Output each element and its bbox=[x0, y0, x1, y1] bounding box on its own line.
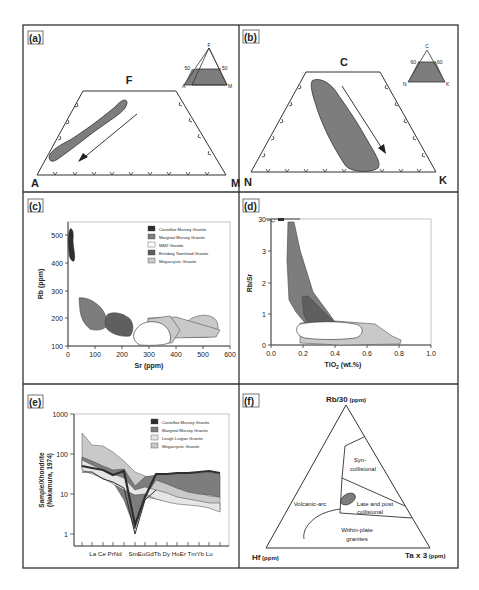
svg-text:10: 10 bbox=[60, 491, 68, 498]
svg-text:0.0: 0.0 bbox=[266, 350, 276, 357]
svg-text:MMZ Granite: MMZ Granite bbox=[159, 243, 184, 248]
vertex-C: C bbox=[340, 56, 348, 68]
vertex-F: F bbox=[126, 74, 133, 86]
svg-text:0.8: 0.8 bbox=[394, 350, 404, 357]
svg-text:Lough Lurgan Granite: Lough Lurgan Granite bbox=[162, 436, 203, 441]
c-ylabel: Rb (ppm) bbox=[37, 269, 45, 300]
svg-text:Costelloe Murvey Granite: Costelloe Murvey Granite bbox=[159, 227, 207, 232]
panel-d-tag: (d) bbox=[244, 201, 257, 212]
svg-text:Rb/30 (ppm): Rb/30 (ppm) bbox=[326, 395, 366, 404]
svg-text:100: 100 bbox=[51, 343, 63, 350]
svg-text:60: 60 bbox=[437, 59, 443, 65]
svg-text:Within-plate: Within-plate bbox=[341, 527, 373, 533]
vertex-N: N bbox=[244, 176, 252, 188]
e-legend: Costelloe Murvey Granite Marginal Murvey… bbox=[151, 419, 210, 449]
svg-text:500: 500 bbox=[197, 351, 209, 358]
svg-text:F: F bbox=[207, 42, 210, 48]
panel-c-tag: (c) bbox=[29, 201, 41, 212]
svg-text:600: 600 bbox=[224, 351, 236, 358]
inset-afm: F A M 50 50 bbox=[182, 42, 232, 89]
figure: (a) F A M F A M 50 50 (b) bbox=[0, 0, 479, 590]
e-xlabels: La Ce PrNd SmEuGdTb Dy HoEr TmYb Lu bbox=[89, 550, 213, 557]
svg-text:Costelloe Murvey Granite: Costelloe Murvey Granite bbox=[162, 420, 210, 425]
svg-text:K: K bbox=[446, 81, 450, 87]
panel-e: (e) 1000 100 10 1 La Ce PrNd SmEuGdTb Dy… bbox=[28, 395, 229, 557]
svg-text:1: 1 bbox=[64, 531, 68, 538]
panel-e-tag: (e) bbox=[29, 397, 41, 408]
panel-b-tag: (b) bbox=[244, 32, 257, 43]
svg-text:200: 200 bbox=[116, 351, 128, 358]
svg-text:M: M bbox=[228, 83, 232, 89]
svg-text:0: 0 bbox=[262, 342, 266, 349]
vertex-M: M bbox=[231, 177, 240, 189]
vertex-K: K bbox=[439, 174, 447, 186]
panel-a-tag: (a) bbox=[29, 33, 41, 44]
svg-text:30: 30 bbox=[258, 216, 266, 223]
vertex-A: A bbox=[31, 177, 39, 189]
svg-text:Ta x 3 (ppm): Ta x 3 (ppm) bbox=[405, 551, 445, 560]
svg-text:300: 300 bbox=[51, 288, 63, 295]
panel-f-tag: (f) bbox=[244, 396, 254, 407]
svg-text:Syn-: Syn- bbox=[354, 457, 366, 463]
svg-text:500: 500 bbox=[51, 232, 63, 239]
panel-a: (a) F A M F A M 50 50 bbox=[28, 31, 240, 189]
svg-text:collisional: collisional bbox=[357, 509, 383, 515]
svg-text:Errisbeg Townland Granite: Errisbeg Townland Granite bbox=[159, 251, 209, 256]
svg-text:Megacrystic Granite: Megacrystic Granite bbox=[159, 259, 197, 264]
panel-b: (b) C N K C N K 60 60 bbox=[243, 30, 450, 188]
c-xlabel: Sr (ppm) bbox=[135, 362, 164, 370]
svg-text:2: 2 bbox=[262, 280, 266, 287]
svg-text:granites: granites bbox=[346, 536, 367, 542]
panel-d: (d) 0.0 0.2 0.4 0.6 0.8 1.0 0 1 2 3 30 T… bbox=[243, 199, 436, 370]
svg-text:1000: 1000 bbox=[52, 411, 68, 418]
svg-text:100: 100 bbox=[89, 351, 101, 358]
svg-text:0: 0 bbox=[66, 351, 70, 358]
svg-text:100: 100 bbox=[56, 451, 68, 458]
svg-text:collisional: collisional bbox=[350, 466, 376, 472]
svg-text:Volcanic-arc: Volcanic-arc bbox=[294, 501, 327, 507]
svg-text:C: C bbox=[425, 43, 429, 49]
svg-text:0.2: 0.2 bbox=[298, 350, 308, 357]
d-xlabel: TiO2 (wt.%) bbox=[325, 361, 362, 370]
d-ylabel: Rb/Sr bbox=[246, 273, 253, 292]
svg-text:0.6: 0.6 bbox=[362, 350, 372, 357]
panel-c: (c) 0 100 200 300 400 500 600 100 200 30… bbox=[28, 199, 236, 370]
svg-text:Hf (ppm): Hf (ppm) bbox=[252, 553, 279, 562]
svg-text:400: 400 bbox=[51, 260, 63, 267]
svg-text:3: 3 bbox=[262, 248, 266, 255]
c-legend: Costelloe Murvey Granite Marginal Murvey… bbox=[148, 226, 209, 264]
svg-text:200: 200 bbox=[51, 315, 63, 322]
svg-text:50: 50 bbox=[222, 65, 228, 71]
cnk-field bbox=[311, 80, 379, 172]
svg-text:Late and post: Late and post bbox=[357, 501, 394, 507]
inset-cnk: C N K 60 60 bbox=[403, 43, 450, 87]
panel-f: (f) Rb/30 (ppm) Hf (ppm) Ta x 3 (ppm) Sy… bbox=[243, 394, 445, 562]
svg-text:50: 50 bbox=[184, 65, 190, 71]
svg-text:60: 60 bbox=[410, 59, 416, 65]
svg-text:1.0: 1.0 bbox=[426, 350, 436, 357]
svg-text:Marginal Murvey Granite: Marginal Murvey Granite bbox=[162, 428, 209, 433]
figure-frame bbox=[23, 25, 458, 568]
svg-text:400: 400 bbox=[170, 351, 182, 358]
svg-text:Marginal Murvey Granite: Marginal Murvey Granite bbox=[159, 235, 206, 240]
svg-text:300: 300 bbox=[143, 351, 155, 358]
svg-text:N: N bbox=[403, 81, 407, 87]
svg-text:Sample/Xhondrite: Sample/Xhondrite bbox=[38, 452, 46, 508]
svg-text:(Nakamura, 1974): (Nakamura, 1974) bbox=[46, 453, 54, 507]
svg-text:Megacrystic Granite: Megacrystic Granite bbox=[162, 444, 200, 449]
svg-text:1: 1 bbox=[262, 311, 266, 318]
svg-text:0.4: 0.4 bbox=[330, 350, 340, 357]
